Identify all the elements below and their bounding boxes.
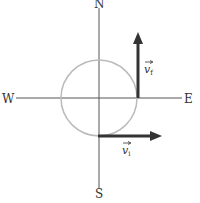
final-velocity-arrowhead-icon (133, 32, 143, 44)
svg-text:vi: vi (122, 144, 131, 158)
north-label: N (94, 0, 105, 11)
initial-velocity-arrowhead-icon (150, 131, 162, 141)
east-label: E (184, 92, 193, 106)
south-label: S (95, 187, 103, 201)
svg-text:vf: vf (144, 63, 154, 77)
motion-diagram: N S W E vf vi (0, 0, 200, 203)
final-velocity-label: vf (144, 61, 154, 78)
initial-velocity-label: vi (122, 142, 131, 159)
west-label: W (2, 92, 15, 106)
